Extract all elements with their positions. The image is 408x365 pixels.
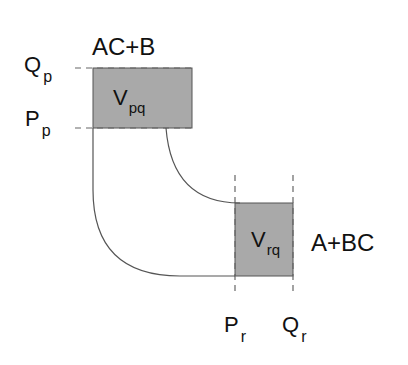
outer-channel-curve bbox=[93, 128, 235, 276]
top-box-vpq bbox=[93, 68, 192, 128]
pp-label: Pp bbox=[25, 106, 51, 139]
pr-label: Pr bbox=[224, 312, 247, 345]
inner-channel-curve bbox=[166, 128, 240, 203]
species-ac-b: AC+B bbox=[92, 33, 155, 60]
species-a-bc: A+BC bbox=[311, 229, 374, 256]
qr-label: Qr bbox=[282, 312, 307, 345]
reaction-path-diagram: Vpq Vrq AC+B A+BC Qp Pp Pr Qr bbox=[0, 0, 408, 365]
qp-label: Qp bbox=[24, 52, 52, 85]
